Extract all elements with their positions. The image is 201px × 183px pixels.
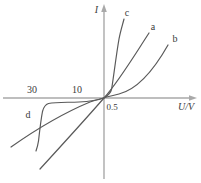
iv-characteristics-figure: I U/V 30 10 0.5 a b c d bbox=[0, 0, 201, 183]
tick-label-30: 30 bbox=[27, 84, 37, 95]
tick-label-10: 10 bbox=[72, 84, 82, 95]
tick-label-0.5: 0.5 bbox=[106, 102, 118, 112]
x-axis-arrow-icon bbox=[189, 95, 197, 101]
curve-label-d: d bbox=[26, 109, 31, 120]
curve-label-b: b bbox=[173, 33, 178, 44]
y-axis-label: I bbox=[94, 4, 99, 15]
curve-label-c: c bbox=[125, 7, 130, 18]
iv-characteristics-chart: I U/V 30 10 0.5 a b c d bbox=[0, 0, 201, 183]
curve-b bbox=[11, 45, 168, 147]
x-axis-label: U/V bbox=[178, 101, 196, 112]
y-axis-arrow-icon bbox=[101, 4, 107, 12]
curve-label-a: a bbox=[151, 21, 156, 32]
